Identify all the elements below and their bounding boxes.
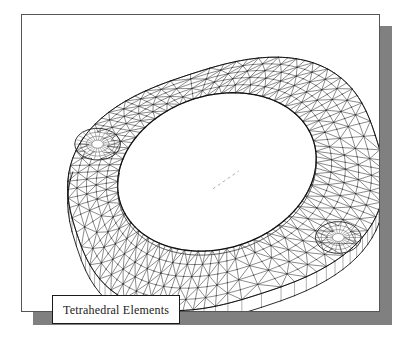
caption-box: Tetrahedral Elements <box>52 295 180 324</box>
mesh-group <box>68 57 379 311</box>
center-axis-marker <box>213 171 239 189</box>
caption-label: Tetrahedral Elements <box>63 303 169 317</box>
figure-frame: Tetrahedral Elements <box>21 14 380 312</box>
tetrahedral-mesh-drawing <box>22 15 379 311</box>
figure-page: Tetrahedral Elements <box>0 0 413 342</box>
